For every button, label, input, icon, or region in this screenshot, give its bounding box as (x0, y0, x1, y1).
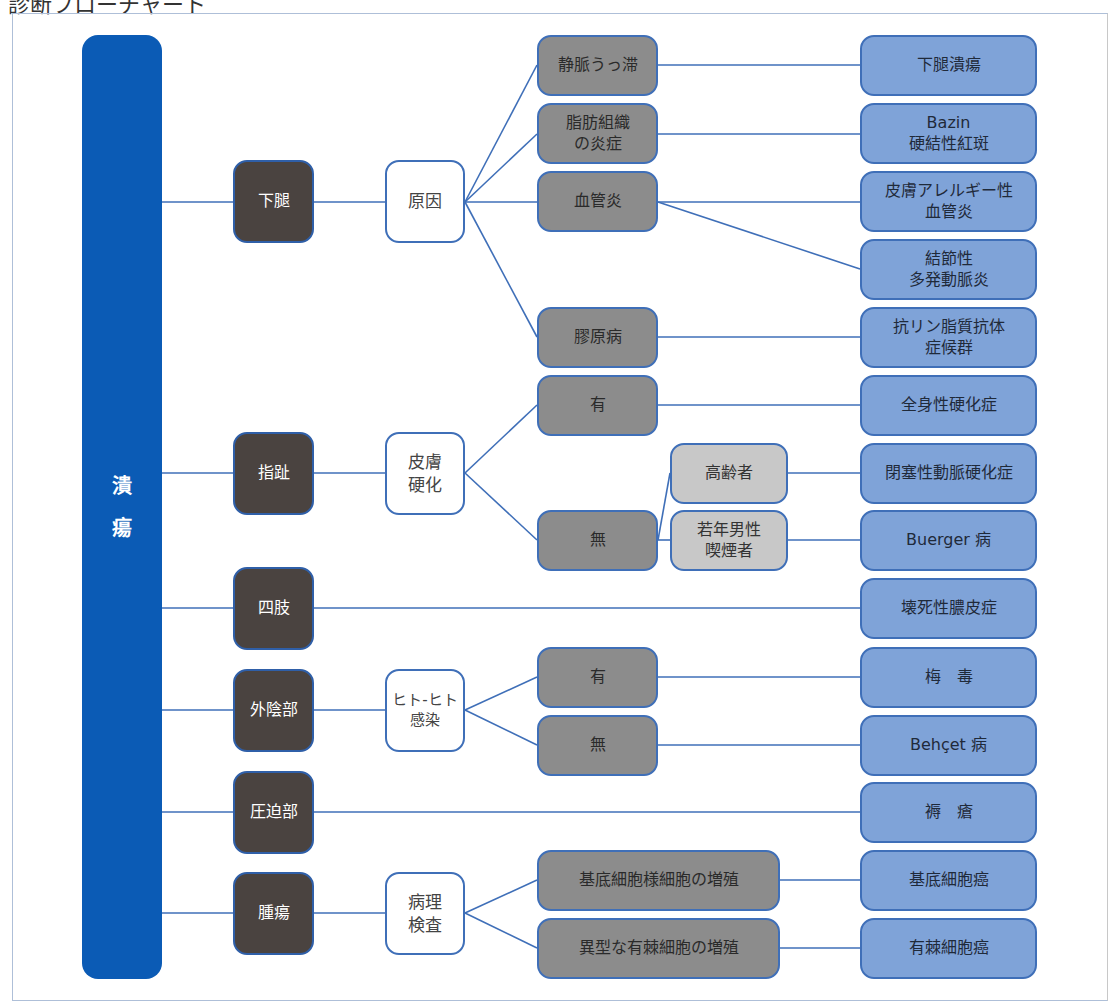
finding-node-atypical-squamous-proliferation: 異型な有棘細胞の増殖 (537, 918, 780, 979)
region-node-limbs: 四肢 (233, 567, 314, 650)
criterion-node-pathology: 病理 検査 (385, 872, 465, 955)
criterion-node-skin-sclerosis: 皮膚 硬化 (385, 432, 465, 515)
root-node-ulcer: 潰 瘍 (82, 35, 162, 979)
diagnosis-node-behcet: Behçet 病 (860, 715, 1037, 776)
diagnosis-node-basal-cell-carcinoma: 基底細胞癌 (860, 850, 1037, 911)
finding-node-transmission-no: 無 (537, 715, 658, 776)
root-label-2: 瘍 (112, 515, 132, 541)
region-node-digits: 指趾 (233, 432, 314, 515)
criterion-node-human-transmission: ヒト-ヒト 感染 (385, 669, 465, 752)
subfinding-node-young-male-smoker: 若年男性 喫煙者 (670, 510, 788, 571)
diagnosis-node-squamous-cell-carcinoma: 有棘細胞癌 (860, 918, 1037, 979)
diagnosis-node-buerger: Buerger 病 (860, 510, 1037, 571)
diagnosis-node-bazin: Bazin 硬結性紅斑 (860, 103, 1037, 164)
diagnosis-node-allergic-vasculitis: 皮膚アレルギー性 血管炎 (860, 171, 1037, 232)
diagnosis-node-syphilis: 梅 毒 (860, 647, 1037, 708)
diagnosis-node-antiphospholipid-syndrome: 抗リン脂質抗体 症候群 (860, 307, 1037, 368)
diagnosis-node-systemic-sclerosis: 全身性硬化症 (860, 375, 1037, 436)
finding-node-transmission-yes: 有 (537, 647, 658, 708)
finding-node-sclerosis-no: 無 (537, 510, 658, 571)
criterion-node-cause: 原因 (385, 160, 465, 243)
root-label-1: 潰 (112, 473, 132, 499)
finding-node-collagen-disease: 膠原病 (537, 307, 658, 368)
finding-node-panniculitis: 脂肪組織 の炎症 (537, 103, 658, 164)
diagnosis-node-pressure-ulcer: 褥 瘡 (860, 782, 1037, 843)
finding-node-basaloid-proliferation: 基底細胞様細胞の増殖 (537, 850, 780, 911)
subfinding-node-elderly: 高齢者 (670, 443, 788, 504)
diagnosis-node-polyarteritis-nodosa: 結節性 多発動脈炎 (860, 239, 1037, 300)
finding-node-vasculitis: 血管炎 (537, 171, 658, 232)
region-node-pressure-site: 圧迫部 (233, 771, 314, 854)
finding-node-sclerosis-yes: 有 (537, 375, 658, 436)
diagnosis-node-arteriosclerosis-obliterans: 閉塞性動脈硬化症 (860, 443, 1037, 504)
finding-node-venous-stasis: 静脈うっ滞 (537, 35, 658, 96)
diagnosis-node-pyoderma-gangrenosum: 壊死性膿皮症 (860, 578, 1037, 639)
region-node-lower-leg: 下腿 (233, 160, 314, 243)
region-node-genitals: 外陰部 (233, 669, 314, 752)
diagnosis-node-leg-ulcer: 下腿潰瘍 (860, 35, 1037, 96)
region-node-tumor: 腫瘍 (233, 872, 314, 955)
